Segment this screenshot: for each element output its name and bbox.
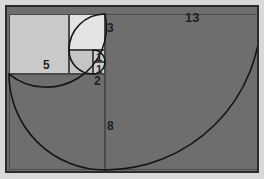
- square-2: [69, 50, 93, 74]
- label-8: 8: [107, 120, 114, 132]
- square-8: [9, 74, 105, 170]
- square-5: [9, 14, 69, 74]
- square-3: [69, 14, 105, 50]
- square-13: [105, 14, 259, 170]
- label-2: 2: [94, 75, 101, 87]
- label-5: 5: [43, 59, 50, 71]
- fibonacci-spiral-figure: 1 1 2 3 5 8 13: [0, 0, 264, 179]
- diagram-plate: 1 1 2 3 5 8 13: [5, 5, 259, 173]
- label-3: 3: [107, 22, 114, 34]
- label-13: 13: [185, 11, 199, 24]
- label-1-upper: 1: [96, 52, 102, 63]
